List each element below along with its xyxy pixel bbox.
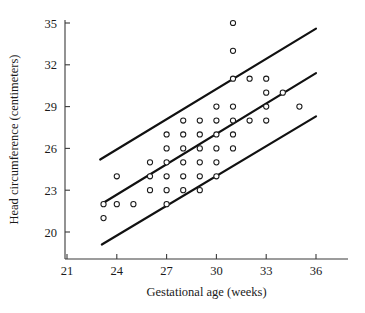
x-axis-tick-label: 21 xyxy=(61,264,74,278)
data-point xyxy=(181,188,186,193)
data-point xyxy=(197,188,202,193)
y-axis-tick-label: 35 xyxy=(45,17,58,31)
data-point xyxy=(214,174,219,179)
data-point xyxy=(214,146,219,151)
y-axis-tick-label: 29 xyxy=(45,100,58,114)
data-point xyxy=(164,132,169,137)
x-axis-tick-label: 30 xyxy=(210,264,223,278)
data-point xyxy=(214,118,219,123)
x-axis-tick-label: 24 xyxy=(111,264,124,278)
data-point xyxy=(147,174,152,179)
data-point xyxy=(247,76,252,81)
chart-canvas: 202326293235212427303336 Gestational age… xyxy=(0,0,365,313)
data-point xyxy=(197,160,202,165)
x-axis-tick-label: 27 xyxy=(160,264,173,278)
data-point xyxy=(181,174,186,179)
scatter-plot-figure: 202326293235212427303336 Gestational age… xyxy=(0,0,365,313)
data-point xyxy=(197,132,202,137)
data-point xyxy=(181,146,186,151)
data-point xyxy=(147,188,152,193)
data-point xyxy=(214,104,219,109)
data-point xyxy=(131,202,136,207)
data-point xyxy=(164,174,169,179)
data-point xyxy=(214,132,219,137)
data-point xyxy=(230,104,235,109)
data-point xyxy=(197,174,202,179)
data-point xyxy=(101,202,106,207)
data-point xyxy=(264,90,269,95)
data-point xyxy=(164,160,169,165)
y-axis-tick-label: 26 xyxy=(45,142,58,156)
data-point xyxy=(164,188,169,193)
x-axis-tick-label: 33 xyxy=(260,264,273,278)
y-axis-tick-label: 32 xyxy=(45,58,58,72)
data-point xyxy=(230,20,235,25)
y-axis-tick-label: 23 xyxy=(45,184,58,198)
data-point xyxy=(147,160,152,165)
y-axis-title: Head circumference (centimeters) xyxy=(7,54,21,224)
data-point xyxy=(181,132,186,137)
data-point xyxy=(101,215,106,220)
data-point xyxy=(164,146,169,151)
data-point xyxy=(264,104,269,109)
data-point xyxy=(181,160,186,165)
data-point xyxy=(264,118,269,123)
x-axis-tick-label: 36 xyxy=(310,264,323,278)
data-point xyxy=(264,76,269,81)
data-point xyxy=(114,202,119,207)
data-point xyxy=(247,118,252,123)
y-axis-tick-label: 20 xyxy=(45,226,58,240)
data-point xyxy=(114,174,119,179)
data-point xyxy=(181,118,186,123)
data-point xyxy=(197,146,202,151)
data-point xyxy=(280,90,285,95)
data-point xyxy=(297,104,302,109)
data-point xyxy=(230,48,235,53)
data-point xyxy=(230,132,235,137)
data-point xyxy=(214,160,219,165)
data-point xyxy=(230,118,235,123)
data-point xyxy=(164,202,169,207)
x-axis-title: Gestational age (weeks) xyxy=(146,285,266,299)
data-point xyxy=(230,76,235,81)
data-point xyxy=(197,118,202,123)
data-point xyxy=(230,146,235,151)
